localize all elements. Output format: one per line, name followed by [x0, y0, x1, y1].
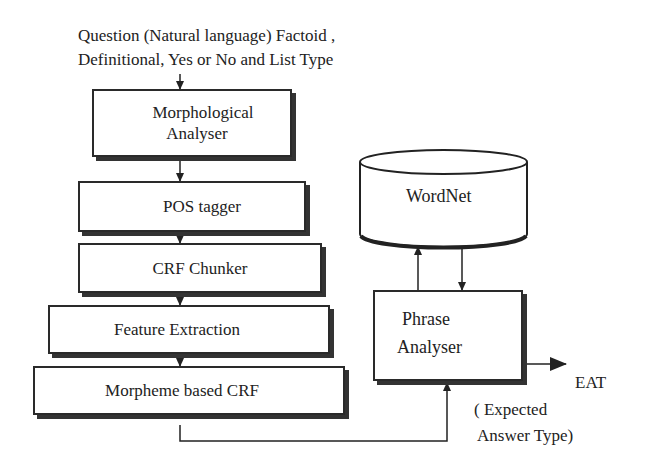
morpheme-based-crf-box: Morpheme based CRF [33, 366, 345, 415]
eat-label: EAT [575, 373, 606, 393]
pos-tagger-label: POS tagger [143, 196, 241, 217]
morpheme-based-crf-label: Morpheme based CRF [105, 380, 273, 401]
phrase-analyser-label-line1: Phrase [397, 305, 450, 333]
pos-tagger-box: POS tagger [78, 181, 306, 232]
phrase-analyser-label-line2: Analyser [397, 333, 462, 361]
morphological-analyser-label-line1: Morphological [130, 102, 253, 123]
eat-description-line1: ( Expected [474, 400, 547, 420]
feature-extraction-label: Feature Extraction [114, 319, 264, 340]
input-question-line2: Definitional, Yes or No and List Type [78, 50, 333, 70]
morphological-analyser-box: Morphological Analyser [92, 89, 292, 157]
eat-description-line2: Answer Type) [477, 426, 573, 446]
input-question-line1: Question (Natural language) Factoid , [78, 26, 335, 46]
wordnet-label: WordNet [406, 186, 472, 206]
morphological-analyser-label-line2: Analyser [156, 123, 227, 144]
crf-chunker-box: CRF Chunker [78, 243, 322, 293]
phrase-analyser-box: Phrase Analyser [373, 290, 523, 381]
feature-extraction-box: Feature Extraction [48, 305, 330, 354]
crf-chunker-label: CRF Chunker [153, 258, 248, 279]
